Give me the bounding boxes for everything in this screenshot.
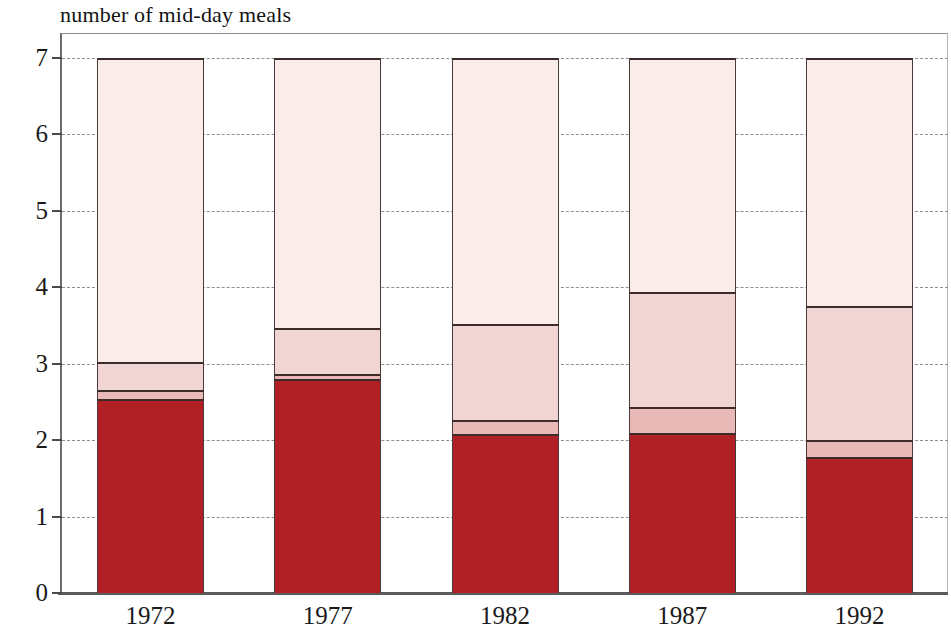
bar-1972-segment-4[interactable]: [97, 58, 204, 362]
bar-1977-segment-2[interactable]: [274, 374, 381, 379]
y-axis-label-1: 1: [8, 504, 48, 529]
stacked-bar-chart: number of mid-day meals 01234567 1972197…: [0, 0, 951, 636]
bar-1982-segment-3[interactable]: [452, 324, 559, 420]
bar-1972-segment-1[interactable]: [97, 399, 204, 593]
bar-1987-segment-4[interactable]: [629, 58, 736, 292]
y-axis-label-0: 0: [8, 580, 48, 605]
bar-1982-segment-4[interactable]: [452, 58, 559, 324]
bar-1987-segment-2[interactable]: [629, 407, 736, 433]
bar-1972[interactable]: [97, 58, 204, 593]
bar-1972-segment-2[interactable]: [97, 390, 204, 399]
bar-1992-segment-4[interactable]: [806, 58, 913, 306]
bar-1982-segment-1[interactable]: [452, 434, 559, 593]
y-axis-label-3: 3: [8, 351, 48, 376]
x-axis-label-1982: 1982: [435, 601, 575, 631]
x-axis-label-1972: 1972: [81, 601, 221, 631]
bar-1992[interactable]: [806, 58, 913, 593]
y-axis-label-4: 4: [8, 274, 48, 299]
y-axis-label-5: 5: [8, 198, 48, 223]
chart-title: number of mid-day meals: [60, 2, 291, 28]
y-axis-label-7: 7: [8, 45, 48, 70]
bar-1992-segment-1[interactable]: [806, 457, 913, 593]
bar-1977-segment-3[interactable]: [274, 328, 381, 374]
bar-1987-segment-1[interactable]: [629, 433, 736, 593]
x-axis-label-1987: 1987: [612, 601, 752, 631]
bar-1977-segment-4[interactable]: [274, 58, 381, 328]
plot-area: [60, 33, 948, 593]
y-axis-label-2: 2: [8, 427, 48, 452]
bar-1992-segment-2[interactable]: [806, 440, 913, 457]
bar-1982-segment-2[interactable]: [452, 420, 559, 434]
bar-1977-segment-1[interactable]: [274, 379, 381, 593]
x-axis-label-1977: 1977: [258, 601, 398, 631]
bar-1982[interactable]: [452, 58, 559, 593]
y-axis-label-6: 6: [8, 121, 48, 146]
bar-1992-segment-3[interactable]: [806, 306, 913, 440]
bar-1987[interactable]: [629, 58, 736, 593]
bar-1977[interactable]: [274, 58, 381, 593]
bar-1972-segment-3[interactable]: [97, 362, 204, 390]
bar-1987-segment-3[interactable]: [629, 292, 736, 407]
x-axis-label-1992: 1992: [789, 601, 929, 631]
